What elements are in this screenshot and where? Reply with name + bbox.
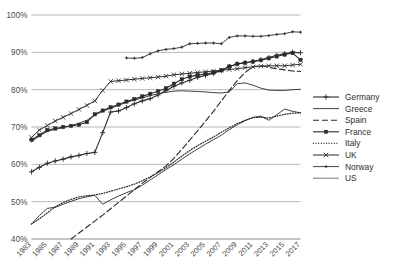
x-tick-label: 2013: [252, 240, 270, 258]
y-axis-tick-labels: 40%50%60%70%80%90%100%: [7, 11, 28, 244]
series-layer: [29, 30, 303, 239]
x-tick-label: 2011: [237, 240, 255, 258]
data-point: [188, 75, 191, 78]
data-point: [61, 157, 66, 162]
chart-legend: GermanyGreeceSpainFranceItalyUKNorwayUS: [313, 92, 380, 183]
data-point: [69, 111, 73, 115]
x-tick-label: 2003: [173, 240, 191, 258]
chart-container: 40%50%60%70%80%90%100% 19831985198719891…: [0, 0, 403, 274]
data-point: [132, 101, 137, 106]
x-tick-label: 2007: [204, 240, 222, 258]
legend-label: Germany: [345, 92, 380, 102]
legend-label: France: [345, 127, 371, 137]
data-point: [236, 34, 239, 37]
data-point: [124, 105, 129, 110]
legend-label: Norway: [345, 162, 374, 172]
x-tick-label: 1991: [78, 240, 96, 258]
x-tick-label: 1993: [94, 240, 112, 258]
data-point: [149, 52, 152, 55]
data-point: [45, 161, 50, 166]
data-point: [37, 128, 41, 132]
data-point: [291, 51, 294, 54]
data-point: [85, 103, 89, 107]
data-point: [37, 165, 42, 170]
legend-label: US: [345, 173, 357, 183]
legend-label: UK: [345, 150, 357, 160]
legend-label: Greece: [345, 104, 373, 114]
data-point: [259, 58, 262, 61]
series-line: [32, 52, 301, 171]
x-tick-label: 1995: [110, 240, 128, 258]
legend-item-france[interactable]: France: [313, 127, 371, 137]
data-point: [125, 56, 128, 59]
data-point: [323, 94, 328, 99]
data-point: [188, 42, 191, 45]
data-point: [61, 115, 65, 119]
data-point: [53, 158, 58, 163]
legend-item-us[interactable]: US: [313, 173, 357, 183]
data-point: [172, 47, 175, 50]
data-point: [108, 109, 113, 114]
data-point: [179, 80, 184, 85]
data-point: [100, 130, 105, 135]
data-point: [252, 35, 255, 38]
data-point: [157, 49, 160, 52]
data-point: [101, 88, 105, 92]
y-tick-label: 70%: [11, 123, 27, 132]
x-tick-label: 2005: [189, 240, 207, 258]
data-point: [244, 34, 247, 37]
data-point: [133, 57, 136, 60]
legend-item-uk[interactable]: UK: [313, 150, 357, 160]
data-point: [298, 50, 303, 55]
legend-item-spain[interactable]: Spain: [313, 115, 367, 125]
y-tick-label: 50%: [11, 198, 27, 207]
data-point: [140, 98, 145, 103]
data-point: [212, 42, 215, 45]
legend-item-italy[interactable]: Italy: [313, 138, 361, 148]
x-tick-label: 1987: [46, 240, 64, 258]
data-point: [196, 42, 199, 45]
data-point: [283, 32, 286, 35]
data-point: [267, 34, 270, 37]
legend-item-germany[interactable]: Germany: [313, 92, 380, 102]
data-point: [164, 86, 167, 89]
data-point: [187, 78, 192, 83]
y-tick-label: 100%: [7, 11, 28, 20]
data-point: [259, 35, 262, 38]
x-tick-label: 1999: [141, 240, 159, 258]
y-tick-label: 60%: [11, 160, 27, 169]
data-point: [180, 46, 183, 49]
x-tick-label: 1985: [30, 240, 48, 258]
data-point: [324, 130, 327, 133]
data-point: [76, 153, 81, 158]
series-spain: [71, 66, 300, 239]
data-point: [165, 48, 168, 51]
data-point: [291, 30, 294, 33]
data-point: [116, 108, 121, 113]
x-tick-label: 2001: [157, 240, 175, 258]
data-point: [243, 61, 246, 64]
data-point: [53, 119, 57, 123]
x-tick-label: 1989: [62, 240, 80, 258]
x-tick-label: 2015: [268, 240, 286, 258]
data-point: [275, 33, 278, 36]
series-italy: [32, 113, 301, 224]
x-tick-label: 1997: [125, 240, 143, 258]
x-tick-label: 2009: [220, 240, 238, 258]
data-point: [180, 78, 183, 81]
data-point: [92, 150, 97, 155]
series-uk: [29, 62, 302, 140]
data-point: [84, 151, 89, 156]
data-point: [172, 82, 175, 85]
data-point: [267, 57, 270, 60]
data-point: [204, 42, 207, 45]
y-tick-label: 80%: [11, 86, 27, 95]
legend-item-greece[interactable]: Greece: [313, 104, 373, 114]
legend-label: Spain: [345, 115, 367, 125]
legend-item-norway[interactable]: Norway: [313, 162, 374, 172]
data-point: [325, 165, 328, 168]
data-point: [251, 60, 254, 63]
y-tick-label: 90%: [11, 48, 27, 57]
data-point: [29, 169, 34, 174]
series-france: [30, 51, 302, 141]
